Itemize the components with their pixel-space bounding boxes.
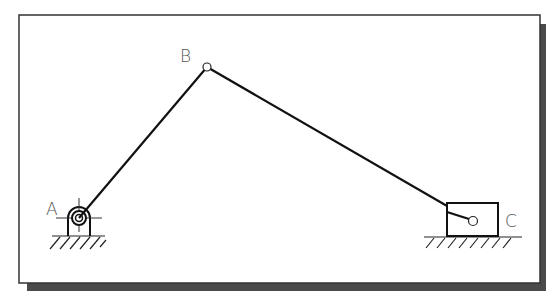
mechanism-diagram: A B C	[0, 0, 560, 304]
label-b: B	[180, 46, 191, 66]
label-c: C	[505, 211, 517, 231]
joint-c	[469, 217, 478, 226]
diagram-frame	[19, 15, 540, 283]
joint-b	[203, 63, 211, 71]
label-a: A	[46, 199, 58, 219]
